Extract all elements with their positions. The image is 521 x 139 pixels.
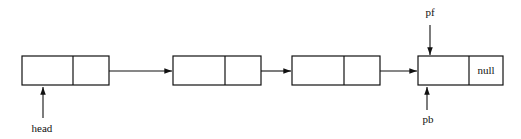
head-label: head bbox=[32, 122, 53, 134]
null-label: null bbox=[477, 64, 494, 76]
list-node-4: null bbox=[418, 56, 503, 85]
list-node-3 bbox=[292, 56, 380, 85]
list-node-1 bbox=[22, 56, 109, 85]
linked-list-diagram: null head pf pb bbox=[0, 0, 521, 139]
pb-label: pb bbox=[423, 113, 435, 125]
pf-label: pf bbox=[425, 6, 435, 18]
list-node-2 bbox=[173, 56, 261, 85]
